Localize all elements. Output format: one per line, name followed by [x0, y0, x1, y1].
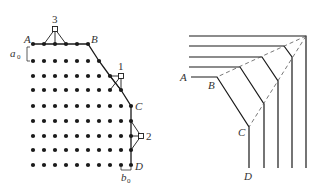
lattice-atom: [86, 59, 90, 63]
point-label-c: C: [135, 100, 143, 112]
lattice-atom: [86, 88, 90, 92]
lattice-atom: [75, 59, 79, 63]
lattice-atom: [64, 59, 68, 63]
lattice-atom: [129, 163, 133, 167]
defect-3: 3: [44, 13, 66, 44]
lattice-atom: [108, 134, 112, 138]
lattice-atom: [75, 88, 79, 92]
lattice-atom: [108, 88, 112, 92]
lattice-atom: [129, 104, 133, 108]
lattice-atom: [129, 134, 133, 138]
lattice-atom: [108, 74, 112, 78]
bent-line-3: [189, 57, 278, 168]
lattice-figure: 3 1 2 a 0 b 0 A B C: [10, 13, 152, 185]
bent-line-abcd: [191, 77, 249, 168]
lattice-atom: [31, 104, 35, 108]
a0-label: a: [10, 47, 16, 59]
lattice-atom: [75, 119, 79, 123]
lattice-atom: [42, 163, 46, 167]
lattice-atom: [64, 163, 68, 167]
lattice-atom: [129, 119, 133, 123]
b0-bracket: [121, 167, 131, 170]
defect-3-marker: [53, 27, 58, 32]
lattice-atom: [64, 88, 68, 92]
point-label-a: A: [23, 33, 31, 45]
lattice-atom: [75, 42, 79, 46]
lattice-atom: [119, 104, 123, 108]
lattice-atom: [53, 163, 57, 167]
point-label-d: D: [134, 160, 143, 172]
lattice-atom: [53, 104, 57, 108]
lattice-atom: [31, 134, 35, 138]
lattice-atom: [64, 148, 68, 152]
lattice-atom: [75, 134, 79, 138]
right-label-d: D: [243, 170, 252, 182]
lattice-atom: [129, 148, 133, 152]
lattice-atom: [42, 104, 46, 108]
lattice-atom: [97, 134, 101, 138]
lattice-atom: [53, 134, 57, 138]
defect-1-marker: [119, 74, 124, 79]
lattice-atom: [119, 163, 123, 167]
bent-lines-figure: A B C D: [179, 36, 306, 182]
lattice-atom: [119, 148, 123, 152]
lattice-atom: [97, 104, 101, 108]
lattice-atom: [31, 42, 35, 46]
lattice-atom: [31, 59, 35, 63]
defect-3-label: 3: [52, 13, 58, 25]
lattice-atom: [108, 104, 112, 108]
lattice-atom: [119, 134, 123, 138]
lattice-atom: [97, 148, 101, 152]
lattice-atom: [86, 74, 90, 78]
lattice-atom: [31, 163, 35, 167]
lattice-atom: [53, 119, 57, 123]
lattice-atom: [86, 119, 90, 123]
lattice-atom: [97, 88, 101, 92]
defect-1-label: 1: [118, 60, 124, 72]
lattice-atom: [75, 104, 79, 108]
lattice-atom: [42, 148, 46, 152]
lattice-atom: [119, 88, 123, 92]
lattice-atom: [42, 119, 46, 123]
lattice-atom: [42, 42, 46, 46]
lattice-atom: [53, 59, 57, 63]
a0-bracket: [27, 47, 30, 61]
right-label-b: B: [208, 79, 215, 91]
lattice-atom: [97, 59, 101, 63]
lattice-atom: [97, 119, 101, 123]
right-label-c: C: [238, 126, 246, 138]
a0-subscript: 0: [17, 53, 21, 61]
point-label-b: B: [91, 33, 98, 45]
lattice-atom: [31, 88, 35, 92]
lattice-atom: [86, 42, 90, 46]
lattice-atom: [53, 42, 57, 46]
figure-canvas: 3 1 2 a 0 b 0 A B C: [0, 0, 322, 193]
lattice-atom: [53, 88, 57, 92]
lattice-atom: [64, 104, 68, 108]
lattice-atom: [75, 148, 79, 152]
bent-line-4: [189, 67, 264, 168]
lattice-atom: [64, 134, 68, 138]
right-label-a: A: [179, 71, 187, 83]
lattice-atom: [75, 163, 79, 167]
lattice-atom: [64, 119, 68, 123]
bent-line-2: [189, 46, 292, 168]
lattice-atom: [86, 148, 90, 152]
lattice-atom: [86, 163, 90, 167]
lattice-atom: [31, 119, 35, 123]
lattice-atom: [42, 59, 46, 63]
lattice-atom: [64, 42, 68, 46]
lattice-atom: [53, 74, 57, 78]
lattice-atom: [31, 74, 35, 78]
b0-subscript: 0: [127, 177, 131, 185]
lattice-atom: [108, 163, 112, 167]
lattice-atom: [75, 74, 79, 78]
lattice-atom: [42, 134, 46, 138]
lattice-atom: [42, 88, 46, 92]
lattice-atom: [97, 74, 101, 78]
lattice-atom: [86, 104, 90, 108]
lattice-atom: [108, 119, 112, 123]
defect-2-marker: [139, 134, 144, 139]
lattice-atom: [97, 163, 101, 167]
lattice-atom: [108, 148, 112, 152]
